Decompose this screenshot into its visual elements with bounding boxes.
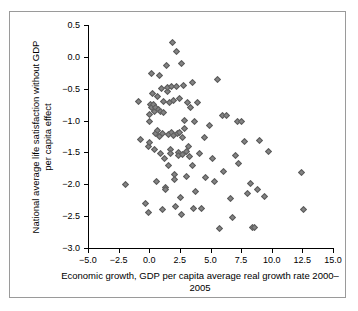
x-tick (211, 249, 212, 253)
x-tick (180, 249, 181, 253)
scatter-point (144, 209, 151, 216)
scatter-point (154, 93, 161, 100)
scatter-point (186, 153, 193, 160)
scatter-point (173, 83, 180, 90)
scatter-point (223, 112, 230, 119)
scatter-point (244, 190, 251, 197)
scatter-point (231, 152, 238, 159)
scatter-point (172, 203, 179, 210)
scatter-point (167, 150, 174, 157)
scatter-point (183, 173, 190, 180)
x-tick (333, 249, 334, 253)
scatter-point (173, 48, 180, 55)
scatter-point (178, 211, 185, 218)
y-tick-label: 0.5 (48, 20, 80, 30)
y-tick (84, 248, 88, 249)
scatter-point (179, 134, 186, 141)
scatter-point (156, 72, 163, 79)
scatter-point (198, 205, 205, 212)
scatter-point (209, 155, 216, 162)
scatter-point (137, 136, 144, 143)
scatter-point (171, 176, 178, 183)
scatter-point (142, 200, 149, 207)
x-axis-label-line1: Economic growth, GDP per capita average … (61, 270, 291, 281)
x-tick (149, 249, 150, 253)
scatter-point (190, 205, 197, 212)
figure-container: Economic growth, GDP per capita average … (0, 0, 358, 311)
x-axis-label: Economic growth, GDP per capita average … (60, 270, 340, 294)
scatter-point (178, 60, 185, 67)
scatter-point (211, 178, 218, 185)
scatter-point (163, 62, 170, 69)
scatter-point (229, 214, 236, 221)
scatter-point (159, 206, 166, 213)
scatter-point (160, 109, 167, 116)
scatter-point (189, 79, 196, 86)
scatter-point (165, 162, 172, 169)
scatter-point (176, 95, 183, 102)
scatter-point (177, 193, 184, 200)
scatter-point (206, 122, 213, 129)
y-tick-label: −0.5 (48, 84, 80, 94)
scatter-point (247, 179, 254, 186)
scatter-point (220, 168, 227, 175)
scatter-point (148, 70, 155, 77)
scatter-point (214, 76, 221, 83)
scatter-point (187, 104, 194, 111)
scatter-point (181, 117, 188, 124)
scatter-point (153, 178, 160, 185)
y-tick-label: −1.0 (48, 116, 80, 126)
x-tick (302, 249, 303, 253)
scatter-point (169, 39, 176, 46)
scatter-point (122, 181, 129, 188)
x-tick-label: 15.0 (313, 255, 353, 266)
scatter-point (193, 99, 200, 106)
y-tick-label: −3.0 (48, 243, 80, 253)
y-tick-label: −1.5 (48, 147, 80, 157)
x-tick (272, 249, 273, 253)
scatter-point (196, 150, 203, 157)
scatter-point (180, 82, 187, 89)
scatter-point (256, 137, 263, 144)
y-tick-label: −2.0 (48, 179, 80, 189)
scatter-point (261, 193, 268, 200)
scatter-point (202, 174, 209, 181)
y-tick-label: 0.0 (48, 52, 80, 62)
scatter-point (192, 188, 199, 195)
scatter-point (241, 138, 248, 145)
scatter-point (216, 225, 223, 232)
scatter-plot-area (88, 25, 333, 248)
x-tick (241, 249, 242, 253)
scatter-point (161, 155, 168, 162)
scatter-point (189, 162, 196, 169)
scatter-point (298, 169, 305, 176)
scatter-point (201, 134, 208, 141)
scatter-point (181, 125, 188, 132)
scatter-point (146, 118, 153, 125)
scatter-point (300, 206, 307, 213)
scatter-point (254, 186, 261, 193)
scatter-point (235, 160, 242, 167)
x-tick (119, 249, 120, 253)
scatter-point (191, 118, 198, 125)
scatter-point (238, 118, 245, 125)
y-tick-label: −2.5 (48, 211, 80, 221)
scatter-point (265, 148, 272, 155)
scatter-point (135, 98, 142, 105)
y-axis-label-line1: National average life satisfaction witho… (30, 17, 42, 257)
scatter-point (227, 195, 234, 202)
x-tick (88, 249, 89, 253)
